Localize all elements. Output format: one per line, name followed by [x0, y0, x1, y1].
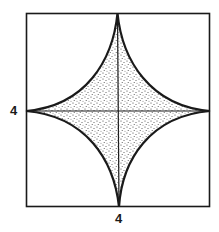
astroid-region: [26, 13, 210, 207]
left-dimension-label: 4: [10, 104, 17, 117]
astroid-diagram: [0, 0, 219, 232]
bottom-dimension-label: 4: [115, 212, 122, 225]
